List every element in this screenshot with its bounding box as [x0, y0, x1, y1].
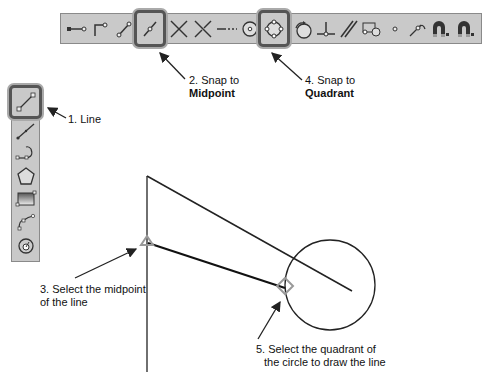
arrow-3	[75, 249, 136, 278]
callout-step2: 2. Snap to Midpoint	[189, 74, 239, 100]
callout-step3-line2: of the line	[40, 296, 146, 309]
callout-step4-line2: Quadrant	[305, 87, 355, 100]
callout-step5: 5. Select the quadrant of the circle to …	[256, 343, 386, 369]
diagonal-line	[147, 176, 352, 291]
arrow-4	[272, 53, 302, 80]
callout-step4: 4. Snap to Quadrant	[305, 74, 355, 100]
callout-step5-line1: 5. Select the quadrant of	[256, 343, 386, 356]
arrow-2	[160, 53, 185, 79]
callout-step2-line1: 2. Snap to	[189, 74, 239, 86]
arrow-5	[258, 302, 280, 339]
callout-step5-line2: the circle to draw the line	[256, 356, 386, 369]
new-line	[148, 243, 285, 288]
callout-step3-line1: 3. Select the midpoint	[40, 283, 146, 296]
arrow-1	[48, 108, 66, 118]
callout-step4-line1: 4. Snap to	[305, 74, 355, 86]
callout-step1: 1. Line	[68, 113, 101, 126]
callout-step2-line2: Midpoint	[189, 87, 239, 100]
callout-step3: 3. Select the midpoint of the line	[40, 283, 146, 309]
circle-shape	[285, 240, 375, 330]
